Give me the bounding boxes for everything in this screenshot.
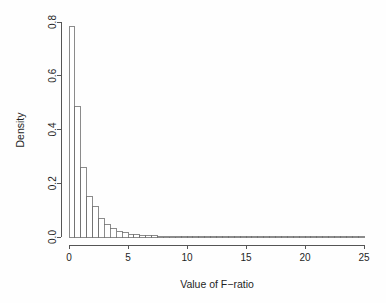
histogram-bar bbox=[346, 237, 352, 238]
histogram-bar bbox=[217, 237, 223, 238]
histogram-bar bbox=[258, 237, 264, 238]
histogram-bar bbox=[152, 236, 158, 237]
histogram-bar bbox=[116, 231, 122, 237]
plot-background bbox=[0, 0, 386, 303]
x-axis-tick-label: 20 bbox=[299, 252, 311, 263]
x-axis-tick-label: 15 bbox=[240, 252, 252, 263]
y-axis-tick-label: 0.2 bbox=[47, 176, 58, 190]
histogram-bar bbox=[281, 237, 287, 238]
x-axis-tick-label: 10 bbox=[181, 252, 193, 263]
histogram-bar bbox=[287, 237, 293, 238]
histogram-bar bbox=[163, 236, 169, 237]
y-axis-tick-label: 0.8 bbox=[47, 15, 58, 29]
y-axis-tick-label: 0.0 bbox=[47, 230, 58, 244]
histogram-bar bbox=[323, 237, 329, 238]
plot-canvas: 0510152025 0.00.20.40.60.8 Value of F−ra… bbox=[0, 0, 386, 303]
histogram-bar bbox=[69, 27, 75, 237]
histogram-bar bbox=[317, 237, 323, 238]
histogram-bar bbox=[81, 168, 87, 237]
histogram-bar bbox=[146, 235, 152, 237]
histogram-bar bbox=[134, 235, 140, 237]
histogram-bar bbox=[228, 237, 234, 238]
histogram-bar bbox=[99, 219, 105, 237]
x-axis-tick-label: 5 bbox=[125, 252, 131, 263]
histogram-bar bbox=[211, 237, 217, 238]
histogram-bar bbox=[352, 237, 358, 238]
histogram-bar bbox=[234, 237, 240, 238]
histogram-bar bbox=[264, 237, 270, 238]
histogram-bar bbox=[240, 237, 246, 238]
histogram-bar bbox=[335, 237, 341, 238]
histogram-bar bbox=[169, 236, 175, 237]
histogram-bar bbox=[252, 237, 258, 238]
y-axis-tick-label: 0.6 bbox=[47, 68, 58, 82]
histogram-bar bbox=[305, 237, 311, 238]
histogram-bar bbox=[205, 237, 211, 238]
histogram-bar bbox=[311, 237, 317, 238]
x-axis-tick-label: 25 bbox=[358, 252, 370, 263]
histogram-bar bbox=[104, 225, 110, 237]
histogram-bar bbox=[246, 237, 252, 238]
histogram-bar bbox=[75, 107, 81, 237]
histogram-bar bbox=[93, 207, 99, 237]
histogram-bar bbox=[110, 229, 116, 237]
histogram-bar bbox=[222, 237, 228, 238]
y-axis-title: Density bbox=[14, 112, 26, 148]
histogram-bar bbox=[276, 237, 282, 238]
y-axis-tick-label: 0.4 bbox=[47, 122, 58, 136]
histogram-bar bbox=[122, 233, 128, 237]
histogram-bar bbox=[340, 237, 346, 238]
histogram-bar bbox=[87, 197, 93, 237]
histogram-bar bbox=[270, 237, 276, 238]
x-axis-title: Value of F−ratio bbox=[180, 278, 254, 290]
histogram-bar bbox=[199, 237, 205, 238]
histogram-bar bbox=[181, 237, 187, 238]
histogram-bar bbox=[193, 237, 199, 238]
histogram-plot: 0510152025 0.00.20.40.60.8 Value of F−ra… bbox=[0, 0, 386, 303]
x-axis-tick-label: 0 bbox=[66, 252, 72, 263]
histogram-bar bbox=[128, 234, 134, 237]
histogram-bar bbox=[299, 237, 305, 238]
histogram-bar bbox=[358, 237, 364, 238]
histogram-bar bbox=[158, 236, 164, 237]
histogram-bar bbox=[293, 237, 299, 238]
histogram-bar bbox=[140, 235, 146, 237]
histogram-bar bbox=[187, 237, 193, 238]
histogram-bar bbox=[175, 236, 181, 237]
histogram-bar bbox=[329, 237, 335, 238]
